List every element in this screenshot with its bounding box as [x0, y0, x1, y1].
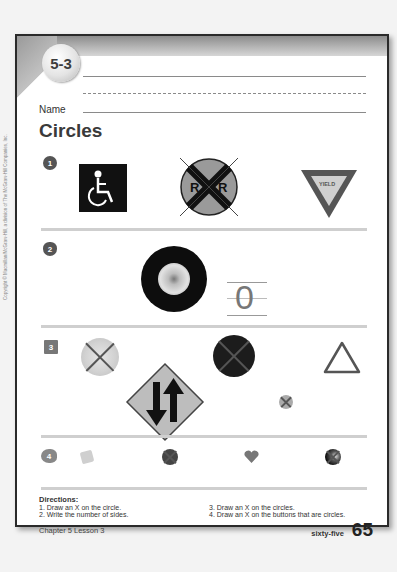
worksheet-page: 5-3 Name Circles 1 R R YIELD — [15, 34, 389, 527]
exercise-3-badge: 3 — [44, 340, 58, 354]
x-mark-icon — [281, 397, 291, 407]
x-mark-icon — [86, 343, 114, 371]
black-round-lid[interactable] — [213, 335, 255, 377]
section-divider — [41, 325, 367, 328]
name-label: Name — [39, 104, 66, 115]
copyright-notice: Copyright © Macmillan/McGraw-Hill, a div… — [3, 134, 8, 300]
chapter-lesson: Chapter 5 Lesson 3 — [39, 526, 104, 535]
directions: Directions: 1. Draw an X on the circle. … — [39, 495, 379, 518]
sides-answer[interactable]: 0 — [235, 278, 254, 316]
exercise-4-badge: 4 — [41, 449, 57, 463]
x-mark-icon — [219, 341, 249, 371]
page-number-word: sixty-five — [311, 529, 344, 538]
heart-icon — [244, 450, 259, 464]
round-plate[interactable] — [81, 338, 119, 376]
exercise-1-badge: 1 — [43, 156, 57, 170]
triangle-icon — [322, 340, 362, 376]
two-way-traffic-sign[interactable] — [125, 362, 205, 442]
yield-triangle-icon: YIELD — [300, 168, 358, 220]
x-mark-icon — [327, 451, 339, 463]
svg-text:YIELD: YIELD — [319, 181, 335, 187]
section-divider — [41, 228, 367, 231]
two-way-arrows-icon — [125, 362, 205, 442]
yield-sign[interactable]: YIELD — [300, 168, 358, 220]
name-line-top[interactable] — [83, 76, 366, 77]
triangle-instrument[interactable] — [322, 340, 362, 376]
page-number: 65 — [352, 519, 373, 541]
square-button[interactable] — [80, 450, 95, 465]
direction-item: 3. Draw an X on the circles. — [209, 504, 379, 511]
railroad-crossing-sign[interactable]: R R — [180, 158, 238, 216]
direction-item: 2. Write the number of sides. — [39, 511, 209, 518]
svg-text:R: R — [218, 180, 228, 195]
x-mark-icon — [164, 451, 176, 463]
page-number-group: sixty-five 65 — [311, 519, 373, 541]
railroad-sign-icon: R R — [180, 158, 238, 216]
round-button-dark[interactable] — [162, 449, 178, 465]
name-line-dashed — [83, 93, 366, 94]
small-round-object[interactable] — [279, 395, 293, 409]
directions-title: Directions: — [39, 495, 379, 504]
round-button-black[interactable] — [325, 449, 341, 465]
page-title: Circles — [39, 120, 102, 142]
section-divider — [41, 487, 367, 490]
handicap-sign[interactable] — [79, 164, 127, 212]
lesson-badge: 5-3 — [42, 44, 80, 82]
svg-text:R: R — [190, 180, 200, 195]
tire[interactable] — [141, 246, 207, 312]
name-line-bottom[interactable] — [83, 112, 366, 113]
exercise-2-badge: 2 — [43, 242, 57, 256]
section-divider — [41, 435, 367, 438]
wheelchair-icon — [86, 168, 120, 208]
direction-item: 4. Draw an X on the buttons that are cir… — [209, 511, 379, 518]
wheel-rim-icon — [158, 263, 190, 295]
direction-item: 1. Draw an X on the circle. — [39, 504, 209, 511]
heart-button[interactable] — [244, 450, 259, 464]
